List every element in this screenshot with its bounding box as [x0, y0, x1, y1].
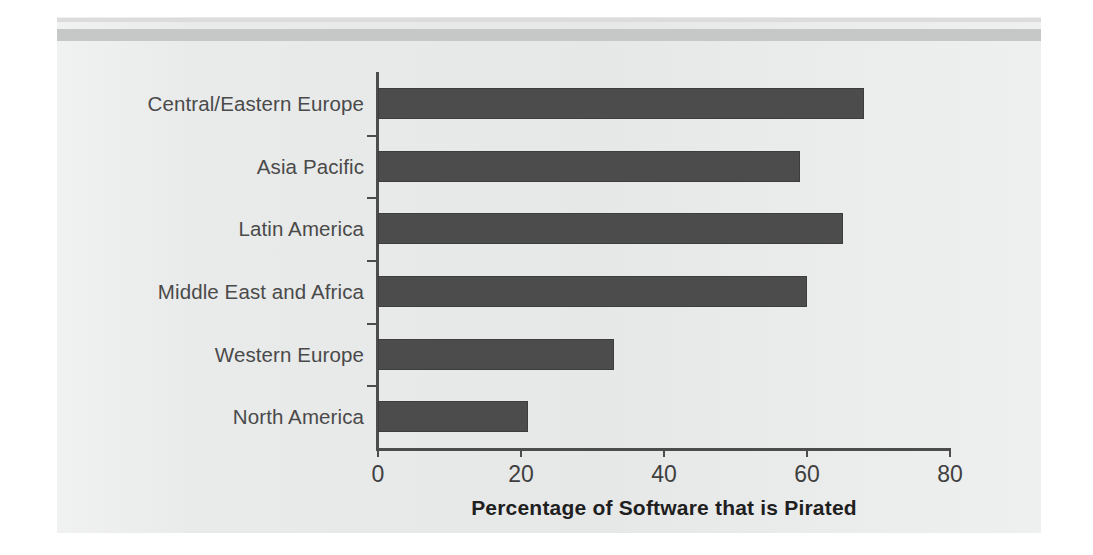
bar-row: Western Europe [378, 323, 950, 386]
bar-row: North America [378, 385, 950, 448]
category-label: Latin America [238, 213, 364, 244]
bar [378, 88, 864, 119]
x-axis-tick-label: 20 [508, 461, 534, 488]
category-label: Asia Pacific [257, 151, 364, 182]
header-rule-band [57, 29, 1041, 41]
y-axis-tick [367, 260, 377, 262]
category-label: Central/Eastern Europe [148, 88, 364, 119]
header-rule-thin [57, 18, 1041, 22]
x-axis-tick-label: 0 [372, 461, 385, 488]
bar-row: Central/Eastern Europe [378, 72, 950, 135]
y-axis-tick [367, 135, 377, 137]
x-axis-tick [520, 448, 522, 457]
bar [378, 151, 800, 182]
bar [378, 339, 614, 370]
plot-area: Central/Eastern EuropeAsia PacificLatin … [378, 72, 950, 448]
bar-row: Asia Pacific [378, 135, 950, 198]
bar-row: Latin America [378, 197, 950, 260]
y-axis-tick [367, 323, 377, 325]
x-axis-title: Percentage of Software that is Pirated [378, 496, 950, 520]
figure: Central/Eastern EuropeAsia PacificLatin … [0, 0, 1093, 555]
category-label: Western Europe [215, 339, 364, 370]
x-axis-tick [949, 448, 951, 457]
bar [378, 276, 807, 307]
x-axis-tick-label: 80 [937, 461, 963, 488]
y-axis-tick [367, 385, 377, 387]
x-axis-tick [663, 448, 665, 457]
y-axis-tick [367, 197, 377, 199]
bar [378, 401, 528, 432]
x-axis-tick [806, 448, 808, 457]
x-axis-tick-label: 60 [794, 461, 820, 488]
x-axis-tick-label: 40 [651, 461, 677, 488]
bar-row: Middle East and Africa [378, 260, 950, 323]
bar [378, 213, 843, 244]
category-label: Middle East and Africa [158, 276, 364, 307]
x-axis-tick [377, 448, 379, 457]
category-label: North America [233, 401, 364, 432]
